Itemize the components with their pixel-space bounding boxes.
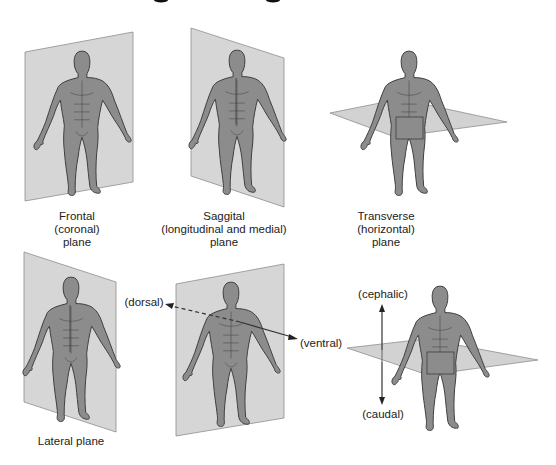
transverse-label-line1: Transverse (357, 210, 414, 222)
lateral-label: Lateral plane (38, 435, 105, 447)
lateral-plane-panel: Lateral plane (23, 252, 120, 447)
dorsal-ventral-panel: (dorsal) (ventral) (125, 264, 343, 436)
cephalic-caudal-panel: (cephalic) (caudal) (347, 286, 538, 430)
dorsal-label: (dorsal) (125, 296, 164, 308)
sagittal-label-line2: (longitudinal and medial) (161, 223, 286, 235)
title-fragment (154, 0, 280, 3)
transverse-plane-panel: Transverse (horizontal) plane (330, 51, 507, 248)
anatomical-planes-diagram: Frontal (coronal) plane Saggital (longit… (0, 0, 556, 465)
shorts-region (396, 117, 423, 139)
caudal-label: (caudal) (362, 408, 404, 420)
down-arrowhead-icon (379, 397, 385, 405)
frontal-plane-panel: Frontal (coronal) plane (25, 32, 133, 248)
dorsal-arrowhead-icon (165, 303, 174, 309)
frontal-label-line3: plane (63, 236, 91, 248)
frontal-label-line2: (coronal) (54, 223, 100, 235)
transverse-label-line2: (horizontal) (357, 223, 415, 235)
sagittal-label-line1: Saggital (203, 210, 245, 222)
sagittal-plane-panel: Saggital (longitudinal and medial) plane (161, 28, 286, 248)
cephalic-label: (cephalic) (358, 288, 408, 300)
sagittal-label-line3: plane (210, 236, 238, 248)
shorts-region (427, 352, 454, 374)
frontal-label-line1: Frontal (59, 210, 95, 222)
ventral-label: (ventral) (300, 337, 342, 349)
ventral-arrowhead-icon (288, 334, 298, 340)
up-arrowhead-icon (379, 304, 385, 312)
transverse-label-line3: plane (372, 236, 400, 248)
